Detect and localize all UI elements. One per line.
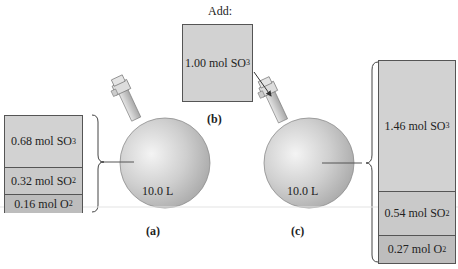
panel-a-label: (a) <box>146 224 160 239</box>
flask-c-volume: 10.0 L <box>287 184 318 199</box>
panel-a-contents: 0.68 mol SO3 0.32 mol SO2 0.16 mol O2 <box>4 115 83 213</box>
panel-b-so3: 1.00 mol SO3 <box>183 25 252 101</box>
panel-c-so3: 1.46 mol SO3 <box>379 61 455 191</box>
panel-a-o2: 0.16 mol O2 <box>5 194 82 213</box>
panel-a-so3: 0.68 mol SO3 <box>5 116 82 167</box>
panel-c-so2: 0.54 mol SO2 <box>379 191 455 235</box>
panel-c-label: (c) <box>291 224 304 239</box>
brace-c <box>366 62 378 262</box>
brace-a <box>92 115 104 212</box>
flask-a-volume: 10.0 L <box>142 184 173 199</box>
panel-c-o2: 0.27 mol O2 <box>379 235 455 263</box>
panel-c-contents: 1.46 mol SO3 0.54 mol SO2 0.27 mol O2 <box>378 60 456 264</box>
panel-b-contents: 1.00 mol SO3 <box>182 24 253 102</box>
panel-b-heading: Add: <box>208 4 232 19</box>
panel-b-label: (b) <box>207 112 222 127</box>
panel-a-so2: 0.32 mol SO2 <box>5 167 82 194</box>
